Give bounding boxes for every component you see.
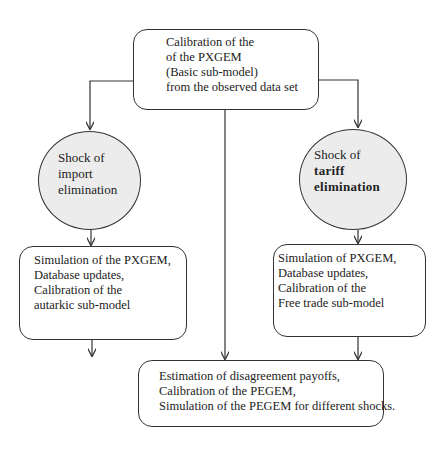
box-text-line: Estimation of disagreement payoffs, (159, 369, 383, 384)
import-elimination-shock-ellipse: Shock of import elimination (38, 131, 141, 230)
box-text-line: Calibration of the (166, 35, 318, 50)
box-text-line: Simulation of the PEGEM for different sh… (159, 399, 383, 414)
box-text-line: Calibration of the PEGEM, (159, 384, 383, 399)
ellipse-text-line: tariff (314, 163, 406, 179)
box-text-line: Database updates, (34, 268, 186, 283)
arrow-top-to-left-ellipse (90, 81, 133, 129)
autarkic-submodel-box: Simulation of the PXGEM, Database update… (19, 246, 187, 340)
ellipse-text-line: Shock of (314, 147, 406, 163)
free-trade-submodel-box: Simulation of PXGEM, Database updates, C… (273, 244, 426, 337)
box-text-line: of the PXGEM (166, 50, 318, 65)
calibration-pxgem-box: Calibration of the of the PXGEM (Basic s… (133, 29, 319, 110)
box-text-line: from the observed data set (166, 80, 318, 95)
arrow-top-to-right-ellipse (318, 80, 358, 127)
ellipse-text-line: elimination (58, 182, 140, 198)
box-text-line: autarkic sub-model (34, 298, 186, 313)
box-text-line: Simulation of PXGEM, (278, 251, 425, 266)
box-text-line: Simulation of the PXGEM, (34, 253, 186, 268)
pegem-estimation-box: Estimation of disagreement payoffs, Cali… (138, 360, 384, 427)
ellipse-text-line: elimination (314, 179, 406, 195)
box-text-line: Database updates, (278, 266, 425, 281)
box-text-line: Calibration of the (278, 281, 425, 296)
ellipse-text-line: Shock of (58, 150, 140, 166)
box-text-line: (Basic sub-model) (166, 65, 318, 80)
ellipse-text-line: import (58, 166, 140, 182)
tariff-elimination-shock-ellipse: Shock of tariff elimination (299, 129, 407, 230)
box-text-line: Free trade sub-model (278, 296, 425, 311)
box-text-line: Calibration of the (34, 283, 186, 298)
